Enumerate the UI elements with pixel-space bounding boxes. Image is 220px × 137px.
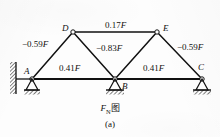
force-label-DB-value: 0.83 <box>101 43 117 53</box>
force-label-BC: 0.41F <box>143 64 164 73</box>
wall-hatching-A <box>10 62 16 94</box>
caption-word: 图 <box>111 103 120 113</box>
ground-hatching-A <box>24 90 40 95</box>
force-label-AB-unit: F <box>75 63 81 73</box>
force-label-EC: −0.59F <box>177 43 203 52</box>
force-label-AD: −0.59F <box>22 40 48 49</box>
force-label-AB-value: 0.41 <box>59 63 75 73</box>
figure-caption-sublabel: (a) <box>0 120 220 129</box>
force-label-BC-unit: F <box>159 63 165 73</box>
figure-caption-main: FN图 <box>0 104 220 115</box>
node-label-C: C <box>198 63 204 72</box>
force-label-AD-value: 0.59 <box>27 39 43 49</box>
node-label-A: A <box>24 67 30 76</box>
force-label-DE: 0.17F <box>105 21 126 30</box>
node-label-E: E <box>163 24 169 33</box>
force-label-DB-unit: F <box>117 43 123 53</box>
node-label-B: B <box>122 82 128 91</box>
truss-axial-force-figure: A B C D E −0.59F 0.17F −0.83F −0.59F 0.4… <box>0 0 220 137</box>
force-label-EC-unit: F <box>198 42 204 52</box>
force-label-EC-value: 0.59 <box>182 42 198 52</box>
force-label-AB: 0.41F <box>59 64 80 73</box>
node-label-D: D <box>62 24 69 33</box>
joint-D <box>71 30 75 34</box>
force-label-DB: −0.83F <box>96 44 122 53</box>
force-label-AD-unit: F <box>43 39 49 49</box>
force-label-DE-unit: F <box>121 20 127 30</box>
ground-hatching-C <box>193 90 211 95</box>
joint-E <box>155 30 159 34</box>
force-label-BC-value: 0.41 <box>143 63 159 73</box>
force-label-DE-value: 0.17 <box>105 20 121 30</box>
